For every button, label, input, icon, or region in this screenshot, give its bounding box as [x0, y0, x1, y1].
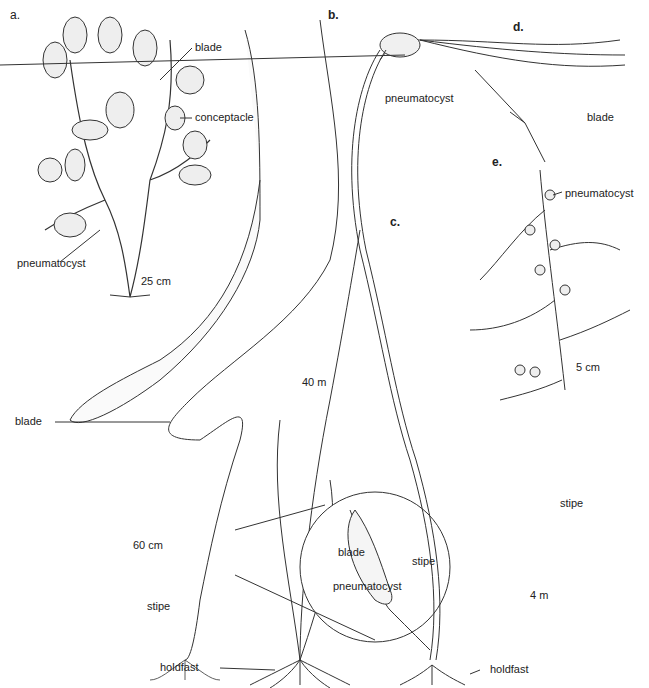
label-a-pneumatocyst: pneumatocyst	[17, 258, 85, 269]
panel-label-c: c.	[390, 215, 400, 229]
scale-d: 4 m	[530, 590, 548, 601]
panel-a-drawing	[38, 17, 211, 297]
label-c-blade: blade	[338, 547, 365, 558]
seaweed-illustration	[0, 0, 649, 688]
label-e-pneumatocyst: pneumatocyst	[565, 188, 633, 199]
label-d-pneumatocyst: pneumatocyst	[385, 93, 453, 104]
scale-c: 40 m	[302, 377, 326, 388]
label-a-conceptacle: conceptacle	[195, 112, 254, 123]
scale-a: 25 cm	[141, 276, 171, 287]
label-d-holdfast: holdfast	[490, 664, 529, 675]
scale-e: 5 cm	[576, 362, 600, 373]
label-b-stipe: stipe	[147, 601, 170, 612]
panel-label-d: d.	[513, 20, 524, 34]
label-c-stipe: stipe	[412, 556, 435, 567]
scale-b: 60 cm	[133, 540, 163, 551]
label-b-blade: blade	[15, 416, 42, 427]
panel-label-a: a.	[10, 8, 20, 22]
label-holdfast-shared: holdfast	[160, 662, 199, 673]
label-a-blade: blade	[195, 42, 222, 53]
panel-label-b: b.	[328, 8, 339, 22]
label-d-stipe: stipe	[560, 498, 583, 509]
panel-e-drawing	[470, 170, 630, 400]
label-de-blade: blade	[587, 112, 614, 123]
panel-label-e: e.	[492, 155, 502, 169]
label-c-pneumatocyst: pneumatocyst	[333, 581, 401, 592]
